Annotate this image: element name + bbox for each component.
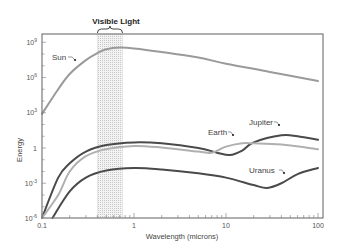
earth-marker-icon [232, 134, 234, 136]
energy-spectrum-chart: 0.1110100109106103110-310-6 Wavelength (… [0, 0, 340, 252]
x-tick-label: 100 [312, 222, 324, 229]
earth-curve [42, 143, 318, 218]
visible-light-band [97, 34, 122, 218]
jupiter-marker-icon [278, 124, 280, 126]
jupiter-curve [42, 135, 318, 218]
curves [42, 48, 318, 218]
y-tick-label: 10-3 [25, 178, 37, 187]
earth-label: Earth [208, 128, 227, 137]
x-tick-label: 10 [222, 222, 230, 229]
x-tick-label: 0.1 [37, 222, 47, 229]
y-tick-label: 106 [26, 72, 37, 81]
y-tick-label: 10-6 [25, 213, 37, 222]
sun-leader [68, 57, 75, 60]
x-axis-title: Wavelength (microns) [146, 232, 219, 241]
visible-light-label: Visible Light [92, 17, 140, 26]
uranus-curve [52, 168, 318, 218]
y-tick-label: 103 [26, 107, 37, 116]
visible-light-bracket [97, 26, 122, 33]
jupiter-label: Jupiter [249, 118, 273, 127]
visible-light-shade [97, 34, 122, 218]
x-tick-label: 1 [132, 222, 136, 229]
tick-labels: 0.1110100109106103110-310-6 [25, 37, 324, 229]
y-axis-title: Energy [15, 138, 24, 162]
axis-ticks [42, 42, 318, 218]
sun-marker-icon [74, 59, 76, 61]
bracket-icon [97, 26, 122, 33]
y-tick-label: 1 [33, 145, 37, 152]
y-tick-label: 109 [26, 37, 37, 46]
uranus-label: Uranus [249, 166, 275, 175]
sun-label: Sun [52, 53, 66, 62]
uranus-marker-icon [283, 172, 285, 174]
sun-curve [42, 48, 318, 114]
